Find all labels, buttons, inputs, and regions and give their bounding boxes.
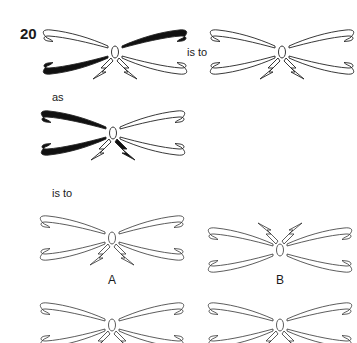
- option-label-b[interactable]: B: [276, 273, 284, 287]
- figure-option-b[interactable]: [280, 250, 281, 251]
- connector-is-to-2: is to: [52, 187, 72, 199]
- option-label-a[interactable]: A: [108, 273, 116, 287]
- connector-is-to-1: is to: [187, 46, 207, 58]
- figure-stem-2: [282, 52, 283, 53]
- figure-option-a[interactable]: [112, 238, 113, 239]
- figure-option-d[interactable]: [280, 325, 281, 326]
- figure-stem-3: [113, 133, 114, 134]
- figure-option-c[interactable]: [112, 325, 113, 326]
- connector-as: as: [52, 91, 64, 103]
- figure-stem-1: [115, 52, 116, 53]
- question-number: 20: [20, 25, 37, 42]
